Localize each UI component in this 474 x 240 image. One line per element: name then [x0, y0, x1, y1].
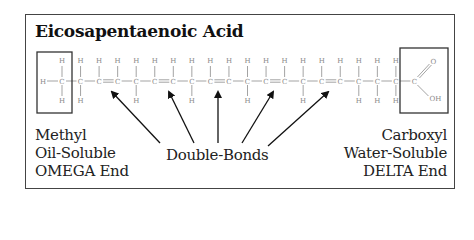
carbon-atom: C	[78, 78, 83, 86]
carbon-atom: C	[300, 78, 305, 86]
methyl-label-line-3: OMEGA End	[35, 162, 129, 180]
hydrogen-atom: H	[393, 57, 399, 65]
hydrogen-atom: H	[133, 57, 139, 65]
hydrogen-atom: H	[356, 57, 362, 65]
hydrogen-atom: H	[263, 57, 269, 65]
hydrogen-atom: H	[189, 57, 195, 65]
carbon-atom: C	[226, 78, 231, 86]
carbon-atom: C	[356, 78, 361, 86]
carbon-atom: C	[152, 78, 157, 86]
hydrogen-atom: H	[244, 97, 250, 105]
methyl-label-line-1: Methyl	[35, 126, 129, 144]
hydrogen-atom: H	[226, 57, 232, 65]
carboxyl-label-line-3: DELTA End	[344, 162, 447, 180]
carbon-atom: C	[263, 78, 268, 86]
carbon-atom: C	[189, 78, 194, 86]
carboxyl-box	[400, 48, 448, 113]
carbon-atom: C	[282, 78, 287, 86]
hydrogen-atom: H	[300, 57, 306, 65]
hydrogen-atom: H	[96, 57, 102, 65]
hydroxyl-group: OH	[430, 95, 442, 103]
carbon-atom: C	[245, 78, 250, 86]
carbon-atom: C	[171, 78, 176, 86]
hydrogen-atom: H	[244, 57, 250, 65]
hydrogen-atom: H	[282, 57, 288, 65]
carboxyl-label-line-2: Water-Soluble	[344, 144, 447, 162]
carboxyl-label: Carboxyl Water-Soluble DELTA End	[344, 126, 447, 180]
hydrogen-atom: H	[77, 97, 83, 105]
hydrogen-atom: H	[170, 57, 176, 65]
hydrogen-atom: H	[356, 97, 362, 105]
carbon-atom: C	[115, 78, 120, 86]
carbon-atom: C	[208, 78, 213, 86]
double-bond-arrows	[112, 92, 328, 146]
hydrogen-atom: H	[374, 57, 380, 65]
carbon-atom: C	[338, 78, 343, 86]
hydrogen-atom: H	[133, 97, 139, 105]
hydrogen-atom: H	[152, 57, 158, 65]
oxygen-atom: O	[431, 58, 437, 66]
arrow-5	[268, 92, 328, 146]
hydrogen-atom: H	[374, 97, 380, 105]
carbon-atom: C	[96, 78, 101, 86]
carboxyl-label-line-1: Carboxyl	[344, 126, 447, 144]
carbon-atom: C	[412, 78, 417, 86]
hydrogen-atom: H	[115, 57, 121, 65]
hydrogen-atom: H	[189, 97, 195, 105]
carbon-atom: C	[59, 78, 64, 86]
carbon-atom: C	[319, 78, 324, 86]
hydrogen-atom: H	[40, 78, 46, 86]
hydrogen-atom: H	[77, 57, 83, 65]
hydrogen-atom: H	[59, 97, 65, 105]
methyl-label-line-2: Oil-Soluble	[35, 144, 129, 162]
hydrogen-atom: H	[393, 97, 399, 105]
carbon-atom: C	[393, 78, 398, 86]
methyl-label: Methyl Oil-Soluble OMEGA End	[35, 126, 129, 180]
carbon-atom: C	[375, 78, 380, 86]
double-bonds-label: Double-Bonds	[166, 146, 268, 164]
hydrogen-atom: H	[319, 57, 325, 65]
hydrogen-atom: H	[207, 57, 213, 65]
hydrogen-atom: H	[337, 57, 343, 65]
carbon-atom: C	[134, 78, 139, 86]
hydrogen-atom: H	[59, 57, 65, 65]
hydrogen-atom: H	[300, 97, 306, 105]
